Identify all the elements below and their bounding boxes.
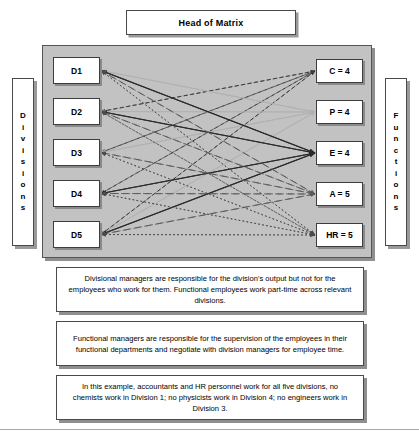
- divisions-letter: i: [22, 145, 24, 157]
- matrix-link-a-d1: [101, 71, 315, 195]
- matrix-link-hr-d3: [101, 153, 315, 236]
- matrix-link-p-d5: [101, 112, 315, 235]
- function-label: E = 4: [329, 148, 349, 158]
- matrix-link-p-d2: [101, 112, 315, 113]
- matrix-link-hr-d4: [101, 194, 315, 236]
- functions-letter: c: [394, 145, 398, 157]
- matrix-link-hr-d1: [101, 71, 315, 236]
- matrix-link-c-d3: [101, 71, 315, 153]
- function-node-c[interactable]: C = 4: [316, 59, 363, 83]
- matrix-link-hr-d1: [101, 71, 315, 236]
- matrix-link-e-d5: [101, 153, 315, 235]
- note-text: Divisional managers are responsible for …: [67, 273, 353, 306]
- head-of-matrix-label: Head of Matrix: [179, 18, 244, 28]
- division-label: D5: [71, 230, 82, 240]
- head-of-matrix-box: Head of Matrix: [126, 10, 296, 35]
- division-node-d3[interactable]: D3: [53, 139, 100, 166]
- matrix-link-p-d3: [101, 112, 315, 153]
- matrix-link-e-d4: [101, 153, 315, 194]
- matrix-link-c-d2: [101, 71, 315, 112]
- division-node-d2[interactable]: D2: [53, 98, 100, 125]
- divisions-letter: s: [21, 156, 25, 168]
- division-label: D2: [71, 107, 82, 117]
- division-label: D1: [71, 66, 82, 76]
- footer-divider: [0, 429, 419, 430]
- functions-letter: t: [395, 156, 398, 168]
- divisions-letter: i: [22, 122, 24, 134]
- divisions-letter: D: [20, 110, 26, 122]
- divisions-letter: v: [21, 133, 25, 145]
- divisions-letter: s: [21, 202, 25, 214]
- matrix-link-a-d3: [101, 153, 315, 195]
- note-text: In this example, accountants and HR pers…: [67, 381, 353, 414]
- note-box-functional-managers: Functional managers are responsible for …: [56, 321, 364, 366]
- functions-letter: n: [394, 191, 399, 203]
- matrix-link-e-d4: [101, 153, 315, 194]
- function-label: A = 5: [329, 189, 349, 199]
- matrix-link-p-d2: [101, 112, 315, 113]
- matrix-link-hr-d4: [101, 194, 315, 236]
- matrix-link-a-d5: [101, 194, 315, 235]
- matrix-link-a-d4: [101, 194, 315, 195]
- matrix-link-c-d2: [101, 71, 315, 112]
- matrix-link-c-d5: [101, 71, 315, 235]
- matrix-link-hr-d2: [101, 112, 315, 236]
- matrix-link-a-d1: [101, 71, 315, 195]
- matrix-link-p-d1: [101, 71, 315, 113]
- matrix-link-c-d3: [101, 71, 315, 153]
- note-box-divisional-managers: Divisional managers are responsible for …: [56, 267, 364, 312]
- matrix-link-e-d2: [101, 112, 315, 154]
- matrix-link-a-d2: [101, 112, 315, 195]
- functions-letter: s: [394, 202, 398, 214]
- matrix-link-a-d3: [101, 153, 315, 195]
- functions-letter: o: [394, 179, 399, 191]
- matrix-link-p-d5: [101, 112, 315, 235]
- function-label: HR = 5: [326, 230, 353, 240]
- note-box-example: In this example, accountants and HR pers…: [56, 375, 364, 420]
- division-node-d1[interactable]: D1: [53, 57, 100, 84]
- division-label: D4: [71, 189, 82, 199]
- matrix-link-hr-d2: [101, 112, 315, 236]
- matrix-link-c-d4: [101, 71, 315, 194]
- division-label: D3: [71, 148, 82, 158]
- matrix-link-e-d1: [101, 71, 315, 154]
- matrix-link-hr-d3: [101, 153, 315, 236]
- matrix-link-hr-d5: [101, 235, 315, 236]
- matrix-link-e-d1: [101, 71, 315, 154]
- matrix-link-c-d4: [101, 71, 315, 194]
- function-node-e[interactable]: E = 4: [316, 141, 363, 165]
- division-node-d4[interactable]: D4: [53, 180, 100, 207]
- function-label: C = 4: [329, 66, 350, 76]
- matrix-link-a-d5: [101, 194, 315, 235]
- matrix-panel: D1 D2 D3 D4 D5 C = 4 P = 4 E = 4 A = 5 H…: [42, 45, 372, 258]
- function-label: P = 4: [330, 107, 350, 117]
- division-node-d5[interactable]: D5: [53, 221, 100, 248]
- matrix-link-a-d4: [101, 194, 315, 195]
- matrix-link-c-d5: [101, 71, 315, 235]
- matrix-link-p-d3: [101, 112, 315, 153]
- matrix-link-p-d1: [101, 71, 315, 113]
- function-node-hr[interactable]: HR = 5: [316, 223, 363, 247]
- divisions-side-label: D i v i s i o n s: [12, 78, 34, 246]
- function-node-a[interactable]: A = 5: [316, 182, 363, 206]
- divisions-letter: o: [21, 179, 26, 191]
- divisions-letter: n: [21, 191, 26, 203]
- matrix-link-e-d2: [101, 112, 315, 154]
- function-node-p[interactable]: P = 4: [316, 100, 363, 124]
- functions-letter: n: [394, 133, 399, 145]
- functions-letter: i: [395, 168, 397, 180]
- matrix-link-a-d2: [101, 112, 315, 195]
- divisions-letter: i: [22, 168, 24, 180]
- functions-letter: F: [394, 110, 399, 122]
- matrix-link-e-d5: [101, 153, 315, 235]
- functions-side-label: F u n c t i o n s: [385, 78, 407, 246]
- functions-letter: u: [394, 122, 399, 134]
- note-text: Functional managers are responsible for …: [67, 333, 353, 355]
- matrix-link-hr-d5: [101, 235, 315, 236]
